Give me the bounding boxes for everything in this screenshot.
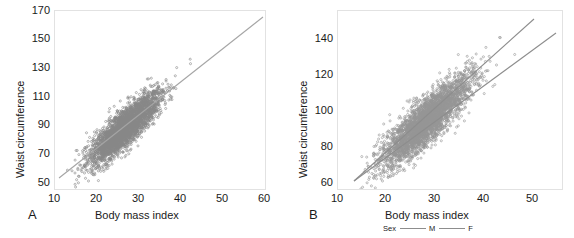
- panel-a-regression-line: [59, 17, 263, 178]
- panel-b-x-tick-40: 40: [469, 192, 497, 204]
- panel-a-y-tick-170: 170: [18, 4, 50, 16]
- panel-a-x-tick-50: 50: [208, 192, 236, 204]
- panel-b-y-axis-title: Waist circumference: [297, 81, 309, 178]
- panel-b-plot-area: [337, 10, 563, 190]
- panel-b-letter: B: [309, 207, 318, 222]
- panel-b-x-tick-10: 10: [323, 192, 351, 204]
- panel-b-regression-line-male: [354, 19, 534, 181]
- legend-line-male-icon: [400, 228, 426, 229]
- panel-b-points: [360, 36, 516, 190]
- panel-a-x-tick-40: 40: [166, 192, 194, 204]
- sex-legend: Sex M F: [383, 224, 473, 233]
- panel-b-scatter-svg: [338, 11, 563, 190]
- panel-a-y-tick-130: 130: [18, 61, 50, 73]
- panel-b-regression-line-female: [354, 33, 556, 181]
- panel-a-y-tick-110: 110: [18, 90, 50, 102]
- figure-container: Waist circumference 170 150 130 110 90 7…: [0, 0, 574, 238]
- panel-b-x-axis-title: Body mass index: [385, 209, 469, 221]
- panel-a-x-tick-20: 20: [82, 192, 110, 204]
- legend-title: Sex: [383, 224, 396, 233]
- panel-a-y-tick-90: 90: [18, 118, 50, 130]
- panel-b-y-tick-60: 60: [301, 176, 333, 188]
- panel-b-y-tick-80: 80: [301, 140, 333, 152]
- panel-a-letter: A: [28, 207, 37, 222]
- panel-a-x-tick-60: 60: [250, 192, 278, 204]
- panel-a-scatter-svg: {}: [55, 11, 266, 190]
- legend-label-female: F: [468, 224, 473, 233]
- panel-b-x-tick-30: 30: [420, 192, 448, 204]
- panel-a-x-tick-30: 30: [124, 192, 152, 204]
- panel-a-y-tick-70: 70: [18, 147, 50, 159]
- panel-b-x-tick-20: 20: [371, 192, 399, 204]
- panel-a-x-tick-10: 10: [40, 192, 68, 204]
- legend-label-male: M: [429, 224, 435, 233]
- panel-a-x-axis-title: Body mass index: [95, 209, 179, 221]
- panel-b-y-tick-120: 120: [301, 68, 333, 80]
- panel-b: Waist circumference 140 120 100 80 60 10…: [287, 0, 574, 238]
- legend-key-male: M: [400, 224, 435, 233]
- legend-key-female: F: [439, 224, 473, 233]
- panel-b-y-tick-140: 140: [301, 32, 333, 44]
- panel-b-y-tick-100: 100: [301, 104, 333, 116]
- legend-line-female-icon: [439, 228, 465, 229]
- panel-a-y-tick-150: 150: [18, 32, 50, 44]
- panel-a-plot-area: {}: [54, 10, 266, 190]
- panel-a-y-tick-50: 50: [18, 176, 50, 188]
- panel-b-x-tick-50: 50: [518, 192, 546, 204]
- panel-a: Waist circumference 170 150 130 110 90 7…: [0, 0, 287, 238]
